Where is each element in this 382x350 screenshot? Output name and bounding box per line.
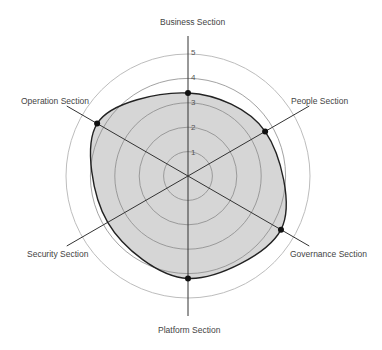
radial-tick-1: 1 [191, 148, 195, 157]
axis-label-platform: Platform Section [158, 325, 220, 335]
radial-tick-2: 2 [191, 123, 195, 132]
data-point-marker [262, 128, 268, 134]
axis-label-people: People Section [291, 96, 348, 106]
axis-label-governance: Governance Section [290, 249, 367, 259]
axis-label-security: Security Section [27, 249, 88, 259]
axis-label-business: Business Section [160, 17, 225, 27]
data-point-marker [185, 275, 191, 281]
radial-tick-4: 4 [191, 73, 195, 82]
data-point-marker [278, 227, 284, 233]
data-point-marker [185, 90, 191, 96]
radial-tick-3: 3 [191, 98, 195, 107]
radial-tick-5: 5 [191, 48, 195, 57]
axis-label-operation: Operation Section [21, 96, 89, 106]
data-point-marker [94, 121, 100, 127]
